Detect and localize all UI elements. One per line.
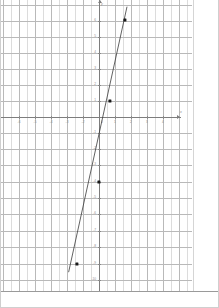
- line-segment: [69, 7, 127, 273]
- data-point: [123, 18, 126, 21]
- plotted-line: [0, 0, 192, 291]
- worksheet-page: -6 -5 -4 -3 -2 0 1 2 3 4 6 5 4 3 2 1 -1: [0, 0, 219, 308]
- page-bottom-edge: [0, 291, 219, 292]
- coordinate-graph: -6 -5 -4 -3 -2 0 1 2 3 4 6 5 4 3 2 1 -1: [0, 0, 192, 291]
- data-point: [109, 99, 112, 102]
- data-point: [97, 180, 100, 183]
- data-point: [75, 262, 78, 265]
- page-right-edge: [193, 0, 194, 292]
